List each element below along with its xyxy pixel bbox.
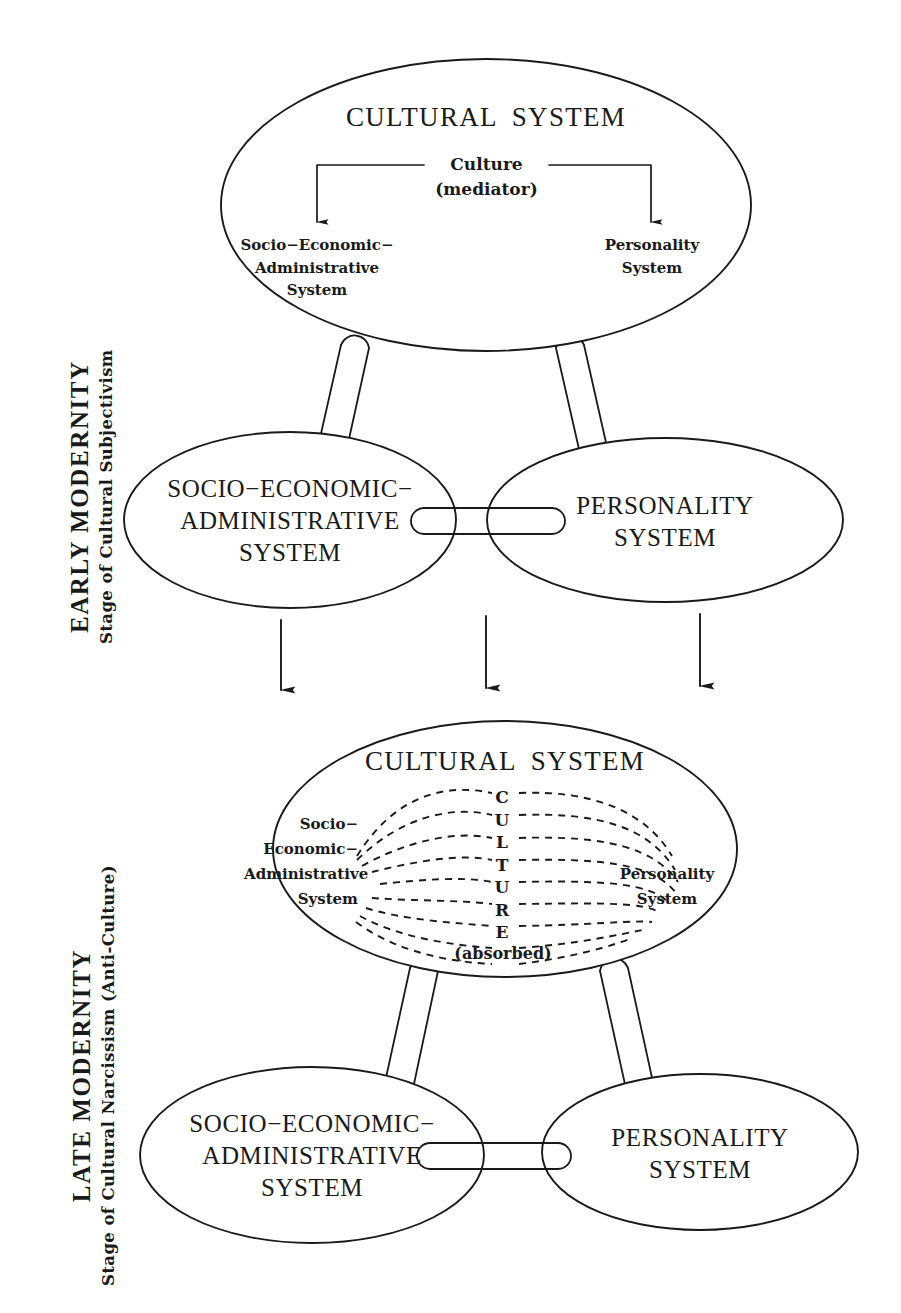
- early-personality-node-line2: SYSTEM: [520, 522, 810, 554]
- culture-absorbed-note: (absorbed): [424, 944, 582, 963]
- late-inner-personality-line1: Personality: [604, 862, 730, 887]
- early-inner-personality-label: Personality System: [571, 234, 733, 279]
- late-socio-node-label: SOCIO−ECONOMIC− ADMINISTRATIVE SYSTEM: [150, 1108, 474, 1204]
- late-inner-socio-line1: Socio−: [244, 812, 358, 837]
- late-inner-socio-line2: Economic−: [244, 837, 358, 862]
- early-inner-personality-line1: Personality: [571, 234, 733, 257]
- late-inner-socio-line4: System: [244, 887, 358, 912]
- diagram-canvas: EARLY MODERNITY Stage of Cultural Subjec…: [0, 0, 901, 1313]
- early-personality-node-label: PERSONALITY SYSTEM: [520, 490, 810, 554]
- culture-mediator-line2: (mediator): [411, 177, 562, 202]
- culture-letter-u1: U: [486, 809, 518, 832]
- late-inner-socio-line3: Administrative: [244, 862, 358, 887]
- late-socio-node-line2: ADMINISTRATIVE: [150, 1140, 474, 1172]
- late-socio-node-line1: SOCIO−ECONOMIC−: [150, 1108, 474, 1140]
- section-heading-late: LATE MODERNITY: [68, 865, 96, 1286]
- early-cultural-title-word1: CULTURAL: [346, 102, 498, 132]
- culture-letter-t: T: [486, 854, 518, 877]
- culture-letter-r: R: [486, 899, 518, 922]
- transition-arrows: [281, 614, 700, 690]
- late-inner-socio-label: Socio− Economic− Administrative System: [244, 812, 358, 912]
- early-cultural-title-word2: SYSTEM: [512, 102, 626, 132]
- early-socio-node-line3: SYSTEM: [128, 537, 452, 569]
- late-tube-right: [600, 958, 656, 1098]
- late-inner-personality-label: Personality System: [604, 862, 730, 912]
- section-caption-early-modernity: EARLY MODERNITY Stage of Cultural Subjec…: [66, 349, 118, 644]
- late-inner-personality-line2: System: [604, 887, 730, 912]
- culture-letter-l: L: [486, 831, 518, 854]
- early-inner-socio-line3: System: [200, 279, 434, 302]
- culture-letter-c: C: [486, 786, 518, 809]
- culture-letter-u2: U: [486, 876, 518, 899]
- early-inner-socio-label: Socio−Economic− Administrative System: [200, 234, 434, 302]
- late-cultural-title-word2: SYSTEM: [531, 746, 645, 776]
- late-personality-node-line2: SYSTEM: [555, 1154, 845, 1186]
- section-caption-late-modernity: LATE MODERNITY Stage of Cultural Narciss…: [68, 865, 120, 1286]
- early-socio-node-line1: SOCIO−ECONOMIC−: [128, 473, 452, 505]
- culture-letter-e: E: [486, 921, 518, 944]
- section-subheading-late: Stage of Cultural Narcissism (Anti-Cultu…: [98, 865, 120, 1286]
- culture-absorbed-letters: C U L T U R E: [486, 786, 518, 944]
- early-inner-socio-line2: Administrative: [200, 257, 434, 280]
- late-personality-node-label: PERSONALITY SYSTEM: [555, 1122, 845, 1186]
- late-cultural-system-title: CULTURALSYSTEM: [305, 745, 705, 779]
- late-personality-node-line1: PERSONALITY: [555, 1122, 845, 1154]
- section-heading-early: EARLY MODERNITY: [66, 349, 94, 644]
- early-cultural-system-title: CULTURALSYSTEM: [286, 101, 686, 135]
- early-socio-node-label: SOCIO−ECONOMIC− ADMINISTRATIVE SYSTEM: [128, 473, 452, 569]
- culture-mediator-label: Culture (mediator): [411, 152, 562, 201]
- section-subheading-early: Stage of Cultural Subjectivism: [96, 349, 118, 644]
- culture-mediator-line1: Culture: [411, 152, 562, 177]
- late-cultural-title-word1: CULTURAL: [365, 746, 517, 776]
- early-inner-personality-line2: System: [571, 257, 733, 280]
- late-socio-node-line3: SYSTEM: [150, 1172, 474, 1204]
- early-inner-socio-line1: Socio−Economic−: [200, 234, 434, 257]
- early-socio-node-line2: ADMINISTRATIVE: [128, 505, 452, 537]
- early-personality-node-line1: PERSONALITY: [520, 490, 810, 522]
